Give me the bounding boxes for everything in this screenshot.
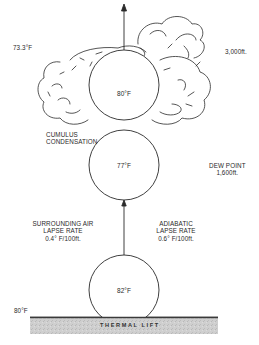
- condensation-label-line2: CONDENSATION: [46, 138, 97, 145]
- rising-arrow-top: [122, 4, 127, 50]
- dew-point-label: DEW POINT 1,600ft.: [209, 162, 246, 177]
- cloud-parcel-temp: 80°F: [104, 90, 144, 97]
- thermal-lift-label: THERMAL LIFT: [100, 322, 160, 328]
- cloud-parcel-circle: [89, 50, 159, 120]
- bottom-parcel-temp: 82°F: [104, 287, 144, 294]
- adiabatic-lapse-line1: ADIABATIC: [153, 220, 199, 227]
- adiabatic-lapse-line3: 0.6° F/100ft.: [153, 235, 199, 242]
- dew-point-label-line2: 1,600ft.: [209, 169, 246, 176]
- adiabatic-lapse-rate-label: ADIABATIC LAPSE RATE 0.6° F/100ft.: [153, 220, 199, 242]
- dew-point-label-line1: DEW POINT: [209, 162, 246, 169]
- middle-parcel-temp: 77°F: [104, 162, 144, 169]
- surrounding-lapse-line3: 0.4° F/100ft.: [31, 235, 95, 242]
- condensation-label: CUMULUS CONDENSATION: [46, 131, 97, 146]
- rising-arrow-middle: [122, 200, 126, 257]
- upper-air-temp-label: 73.3°F: [13, 44, 32, 51]
- surrounding-lapse-line1: SURROUNDING AIR: [31, 220, 95, 227]
- surrounding-lapse-line2: LAPSE RATE: [31, 227, 95, 234]
- surrounding-lapse-rate-label: SURROUNDING AIR LAPSE RATE 0.4° F/100ft.: [31, 220, 95, 242]
- ground-temp-label: 80°F: [14, 307, 28, 314]
- adiabatic-lapse-line2: LAPSE RATE: [153, 227, 199, 234]
- condensation-label-line1: CUMULUS: [46, 131, 97, 138]
- cloud-base-altitude-label: 3,000ft.: [225, 48, 247, 55]
